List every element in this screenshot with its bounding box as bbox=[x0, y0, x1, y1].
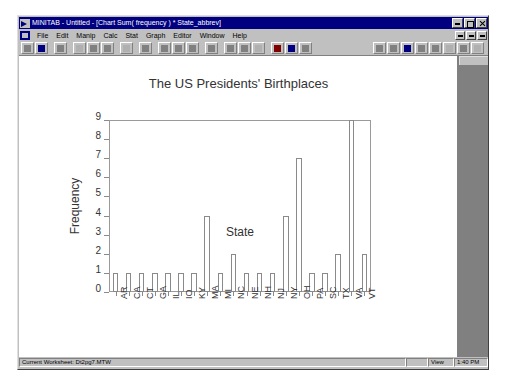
menu-bar: File Edit Manip Calc Stat Graph Editor W… bbox=[19, 29, 488, 41]
x-axis-tick-label: CA bbox=[133, 286, 142, 299]
x-axis-tick bbox=[247, 292, 248, 296]
document-icon[interactable] bbox=[20, 31, 30, 40]
title-bar[interactable]: MINITAB - Untitled - [Chart Sum( frequen… bbox=[19, 17, 488, 29]
marker-icon[interactable] bbox=[457, 42, 470, 54]
palette-icon[interactable] bbox=[401, 42, 414, 54]
bar[interactable] bbox=[349, 120, 355, 292]
graph-window-icon[interactable] bbox=[205, 42, 218, 54]
x-axis-tick bbox=[155, 292, 156, 296]
menu-item-edit[interactable]: Edit bbox=[52, 30, 72, 41]
mdi-close-button[interactable] bbox=[477, 31, 487, 40]
x-axis-tick-label: KY bbox=[198, 287, 207, 299]
x-axis-tick bbox=[338, 292, 339, 296]
open-icon[interactable] bbox=[21, 42, 34, 54]
options-icon[interactable] bbox=[471, 42, 484, 54]
project-manager-icon[interactable] bbox=[186, 42, 199, 54]
y-axis-tick-label: 3 bbox=[95, 230, 101, 231]
cursor-tool-icon[interactable] bbox=[224, 42, 237, 54]
bar[interactable] bbox=[178, 273, 184, 292]
undo-icon[interactable] bbox=[120, 42, 133, 54]
x-axis-tick-label: NY bbox=[290, 286, 299, 299]
x-axis-tick bbox=[168, 292, 169, 296]
y-axis-tick-label: 6 bbox=[95, 173, 101, 174]
menu-item-calc[interactable]: Calc bbox=[99, 30, 121, 41]
toolbar-right-group bbox=[373, 42, 488, 54]
zoom-icon[interactable] bbox=[387, 42, 400, 54]
x-axis-tick-label: GA bbox=[159, 286, 168, 299]
x-axis-tick-label: PA bbox=[316, 288, 325, 299]
mdi-background-top bbox=[459, 56, 488, 65]
copy-icon[interactable] bbox=[87, 42, 100, 54]
cut-icon[interactable] bbox=[73, 42, 86, 54]
mdi-minimize-button[interactable] bbox=[455, 31, 465, 40]
info-icon[interactable] bbox=[299, 42, 312, 54]
x-axis-tick-label: NC bbox=[237, 286, 246, 299]
brush-tool-icon[interactable] bbox=[238, 42, 251, 54]
y-axis-tick-label: 0 bbox=[95, 288, 101, 289]
x-axis-tick-label: SC bbox=[329, 286, 338, 299]
x-axis-tick bbox=[129, 292, 130, 296]
minitab-application-window: MINITAB - Untitled - [Chart Sum( frequen… bbox=[17, 15, 489, 370]
chart-title: The US Presidents' Birthplaces bbox=[19, 76, 458, 91]
menu-item-window[interactable]: Window bbox=[196, 30, 229, 41]
x-axis-tick-label: IO bbox=[185, 289, 194, 299]
x-axis-tick-label: MA bbox=[211, 286, 220, 300]
x-axis-tick bbox=[273, 292, 274, 296]
annotate-icon[interactable] bbox=[415, 42, 428, 54]
print-icon[interactable] bbox=[54, 42, 67, 54]
mdi-restore-button[interactable] bbox=[466, 31, 476, 40]
paste-icon[interactable] bbox=[101, 42, 114, 54]
x-axis-tick-label: IL bbox=[172, 291, 181, 299]
cancel-icon[interactable] bbox=[271, 42, 284, 54]
x-axis-tick bbox=[364, 292, 365, 296]
toolbar bbox=[19, 41, 488, 56]
menu-item-help[interactable]: Help bbox=[229, 30, 251, 41]
menu-item-file[interactable]: File bbox=[33, 30, 52, 41]
menu-item-stat[interactable]: Stat bbox=[121, 30, 141, 41]
status-bar: Current Worksheet: Dt2pg7.MTW View 1:40 … bbox=[19, 357, 488, 368]
window-title: MINITAB - Untitled - [Chart Sum( frequen… bbox=[32, 18, 452, 28]
x-axis-tick-label: OH bbox=[303, 286, 312, 300]
y-axis-tick bbox=[104, 120, 109, 121]
minimize-button[interactable] bbox=[452, 18, 463, 28]
menu-item-editor[interactable]: Editor bbox=[169, 30, 195, 41]
worksheet-icon[interactable] bbox=[158, 42, 171, 54]
mdi-window-controls bbox=[455, 31, 487, 40]
maximize-button[interactable] bbox=[464, 18, 475, 28]
y-axis-title: Frequency bbox=[68, 178, 82, 235]
x-axis-tick-label: VA bbox=[355, 288, 364, 299]
x-axis-tick-label: AR bbox=[120, 286, 129, 299]
x-axis-tick-label: NE bbox=[251, 286, 260, 299]
x-axis-tick bbox=[116, 292, 117, 296]
mdi-client-area: The US Presidents' Birthplaces 012345678… bbox=[19, 56, 488, 358]
x-axis-tick bbox=[299, 292, 300, 296]
bar[interactable] bbox=[113, 273, 119, 292]
edit-tool-icon[interactable] bbox=[252, 42, 265, 54]
region-icon[interactable] bbox=[429, 42, 442, 54]
grid-icon[interactable] bbox=[443, 42, 456, 54]
y-axis-tick bbox=[104, 158, 109, 159]
menu-item-manip[interactable]: Manip bbox=[72, 30, 99, 41]
x-axis-tick bbox=[260, 292, 261, 296]
y-axis-tick-label: 8 bbox=[95, 135, 101, 136]
x-axis-tick bbox=[325, 292, 326, 296]
status-mode: View bbox=[428, 358, 454, 367]
y-axis-tick-label: 5 bbox=[95, 192, 101, 193]
plot-area: 0123456789 Frequency ARCACTGAILIOKYMAMIN… bbox=[109, 120, 371, 292]
graph-window: The US Presidents' Birthplaces 012345678… bbox=[19, 56, 458, 358]
y-axis-tick-label: 1 bbox=[95, 268, 101, 269]
x-axis-tick-label: CT bbox=[146, 287, 155, 299]
x-axis-tick bbox=[351, 292, 352, 296]
window-controls bbox=[452, 18, 487, 28]
session-window-icon[interactable] bbox=[139, 42, 152, 54]
save-icon[interactable] bbox=[35, 42, 48, 54]
layout-icon[interactable] bbox=[373, 42, 386, 54]
y-axis-tick bbox=[104, 216, 109, 217]
close-button[interactable] bbox=[476, 18, 487, 28]
x-axis-tick bbox=[233, 292, 234, 296]
help-icon[interactable] bbox=[285, 42, 298, 54]
x-axis-tick-label: MI bbox=[224, 289, 233, 299]
history-icon[interactable] bbox=[172, 42, 185, 54]
y-axis-tick-label: 9 bbox=[95, 116, 101, 117]
menu-item-graph[interactable]: Graph bbox=[142, 30, 169, 41]
